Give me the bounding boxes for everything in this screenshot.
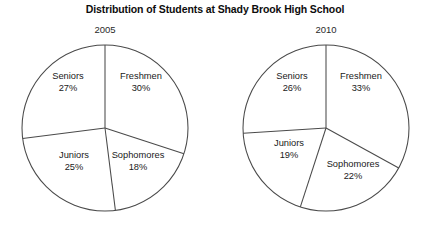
pie-2010-freshmen-pct: 33% bbox=[340, 82, 382, 94]
pie-2010-graphic bbox=[243, 45, 409, 211]
pie-2010-sophomores-pct: 22% bbox=[327, 170, 380, 182]
pie-2005-slice-label-freshmen: Freshmen 30% bbox=[120, 70, 162, 95]
pie-2005-divider-seniors bbox=[23, 128, 105, 138]
pie-2010-slice-label-juniors: Juniors 19% bbox=[274, 137, 304, 162]
pie-2010-sophomores-name: Sophomores bbox=[327, 158, 380, 170]
pie-2010-slice-label-seniors: Seniors 26% bbox=[276, 70, 308, 95]
pie-2005-juniors-name: Juniors bbox=[59, 149, 89, 161]
pie-2010-slice-label-freshmen: Freshmen 33% bbox=[340, 70, 382, 95]
pie-2005-outline bbox=[22, 45, 188, 211]
pie-2010-outline bbox=[243, 45, 409, 211]
pie-2010-seniors-pct: 26% bbox=[276, 82, 308, 94]
pie-2005-slice-label-juniors: Juniors 25% bbox=[59, 149, 89, 174]
pie-2010-juniors-pct: 19% bbox=[274, 149, 304, 161]
pie-2010-year-label: 2010 bbox=[276, 24, 376, 35]
pie-2005-sophomores-name: Sophomores bbox=[112, 149, 165, 161]
pie-chart-figure: Distribution of Students at Shady Brook … bbox=[0, 0, 430, 226]
pie-2005-freshmen-pct: 30% bbox=[120, 82, 162, 94]
page-title: Distribution of Students at Shady Brook … bbox=[0, 3, 430, 15]
pie-2005-graphic bbox=[22, 45, 188, 211]
pie-2010-juniors-name: Juniors bbox=[274, 137, 304, 149]
pie-2005-sophomores-pct: 18% bbox=[112, 161, 165, 173]
pie-2010-slice-label-sophomores: Sophomores 22% bbox=[327, 158, 380, 183]
pie-2005-slice-label-seniors: Seniors 27% bbox=[52, 70, 84, 95]
pie-2005-freshmen-name: Freshmen bbox=[120, 70, 162, 82]
pie-2005-seniors-name: Seniors bbox=[52, 70, 84, 82]
pie-2010-freshmen-name: Freshmen bbox=[340, 70, 382, 82]
pie-2005-slice-label-sophomores: Sophomores 18% bbox=[112, 149, 165, 174]
pie-2010-divider-juniors bbox=[300, 128, 326, 207]
pie-2005-seniors-pct: 27% bbox=[52, 82, 84, 94]
pie-2005-juniors-pct: 25% bbox=[59, 161, 89, 173]
pie-2010-seniors-name: Seniors bbox=[276, 70, 308, 82]
pie-2005-year-label: 2005 bbox=[55, 24, 155, 35]
pie-2010-divider-seniors bbox=[243, 128, 326, 133]
